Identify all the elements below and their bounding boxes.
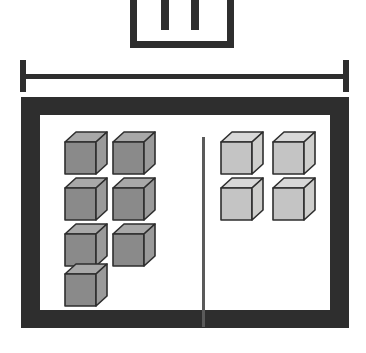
cube-right-2 xyxy=(272,131,316,175)
bracket-base xyxy=(130,41,234,48)
cube-left-2 xyxy=(112,131,156,175)
dimension-line xyxy=(20,74,349,79)
cube-right-4 xyxy=(272,177,316,221)
tray-frame xyxy=(21,97,349,328)
cube-right-1 xyxy=(220,131,264,175)
cube-left-7 xyxy=(64,263,108,307)
cube-right-3 xyxy=(220,177,264,221)
cube-left-5 xyxy=(64,223,108,267)
figure-canvas xyxy=(0,0,366,353)
width-dimension-bar xyxy=(20,60,349,92)
tray-interior xyxy=(40,115,330,310)
cube-left-6 xyxy=(112,223,156,267)
dimension-cap-right xyxy=(343,60,349,92)
cube-left-1 xyxy=(64,131,108,175)
cube-left-4 xyxy=(112,177,156,221)
cube-left-3 xyxy=(64,177,108,221)
tray-divider xyxy=(202,137,205,327)
bracket-prong-1 xyxy=(161,0,169,30)
bracket-prong-2 xyxy=(191,0,199,30)
top-bracket xyxy=(130,0,234,48)
